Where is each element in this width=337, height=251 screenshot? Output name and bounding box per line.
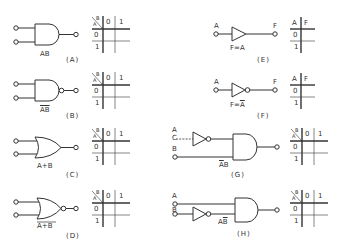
- table-a-col-0: 0: [106, 19, 110, 26]
- table-b-row-1: 1: [95, 100, 99, 107]
- expression-h-neg: B: [223, 218, 228, 226]
- table-g-col-0: 0: [305, 131, 309, 138]
- table-d-row-header: A: [93, 196, 96, 201]
- table-e-row-1: 1: [294, 44, 298, 51]
- caption-h: (H): [237, 231, 251, 238]
- buffer-gate-e: [214, 27, 277, 41]
- input-label-e: A: [214, 23, 219, 30]
- table-b-col-header: B: [96, 72, 99, 77]
- table-h-col-1: 1: [318, 193, 322, 200]
- table-d-col-1: 1: [119, 193, 123, 200]
- expression-f-prefix: F=: [230, 101, 240, 109]
- input-label-g-b: B: [172, 146, 177, 153]
- nand-gate-b: [14, 80, 78, 101]
- caption-c: (C): [66, 172, 79, 179]
- table-g-row-header: A: [292, 134, 295, 139]
- table-d-row-1: 1: [95, 218, 99, 225]
- nor-gate-d: [14, 198, 78, 222]
- table-g-row-0: 0: [293, 144, 297, 151]
- table-a-row-0: 0: [94, 32, 98, 39]
- expression-d: A+B: [37, 223, 52, 230]
- table-h-row-header: A: [292, 196, 295, 201]
- table-e-row-0: 0: [293, 32, 297, 39]
- or-gate-c: [14, 137, 78, 158]
- expression-f: F=A: [230, 102, 245, 109]
- table-c-row-1: 1: [95, 156, 99, 163]
- table-c-row-0: 0: [94, 144, 98, 151]
- table-f-header-a: A: [292, 76, 297, 83]
- table-b-row-header: A: [93, 78, 96, 83]
- not-gate-f: [214, 83, 277, 97]
- expression-f-var: A: [240, 101, 245, 109]
- table-c-row-header: A: [93, 134, 96, 139]
- table-c-col-0: 0: [106, 131, 110, 138]
- output-label-e: F: [273, 23, 277, 30]
- caption-a: (A): [66, 57, 79, 64]
- caption-f: (F): [257, 113, 270, 120]
- table-b-col-0: 0: [106, 75, 110, 82]
- table-a-col-header: B: [96, 16, 99, 21]
- circuit-g: [173, 132, 279, 160]
- input-label-g-c: C: [172, 135, 177, 142]
- table-a-row-1: 1: [95, 44, 99, 51]
- input-label-f: A: [214, 79, 219, 86]
- output-label-f: F: [273, 79, 277, 86]
- caption-g: (G): [231, 172, 245, 179]
- table-g-row-1: 1: [294, 156, 298, 163]
- expression-e: F=A: [230, 45, 245, 52]
- caption-e: (E): [257, 57, 270, 64]
- expression-a: AB: [40, 51, 50, 58]
- table-d-col-header: B: [96, 190, 99, 195]
- expression-b: AB: [40, 107, 50, 114]
- input-label-h-b: B: [172, 207, 177, 214]
- table-f-row-0: 0: [293, 88, 297, 95]
- table-b-row-0: 0: [94, 88, 98, 95]
- table-f-header-f: F: [304, 76, 308, 83]
- table-h-col-header: B: [295, 190, 298, 195]
- table-c-col-1: 1: [119, 131, 123, 138]
- table-c-col-header: B: [96, 128, 99, 133]
- input-label-g-a: A: [172, 127, 177, 134]
- table-h-row-1: 1: [294, 218, 298, 225]
- table-b-col-1: 1: [119, 75, 123, 82]
- table-d-row-0: 0: [94, 206, 98, 213]
- caption-b: (B): [66, 113, 79, 120]
- table-e-header-a: A: [292, 20, 297, 27]
- table-f-row-1: 1: [294, 100, 298, 107]
- expression-g: AB: [219, 162, 229, 169]
- table-a-row-header: A: [93, 22, 96, 27]
- and-gate-a: [14, 24, 78, 45]
- logic-gates-diagram: [0, 0, 337, 251]
- table-d-col-0: 0: [106, 193, 110, 200]
- expression-c: A+B: [37, 163, 52, 170]
- expression-g-pos: B: [224, 161, 229, 169]
- table-g-col-1: 1: [318, 131, 322, 138]
- table-a-col-1: 1: [119, 19, 123, 26]
- caption-d: (D): [66, 233, 80, 240]
- table-h-col-0: 0: [305, 193, 309, 200]
- table-e-header-f: F: [304, 20, 308, 27]
- input-label-h-a: A: [172, 193, 177, 200]
- table-g-col-header: B: [295, 128, 298, 133]
- expression-h: AB: [218, 219, 228, 226]
- table-h-row-0: 0: [293, 206, 297, 213]
